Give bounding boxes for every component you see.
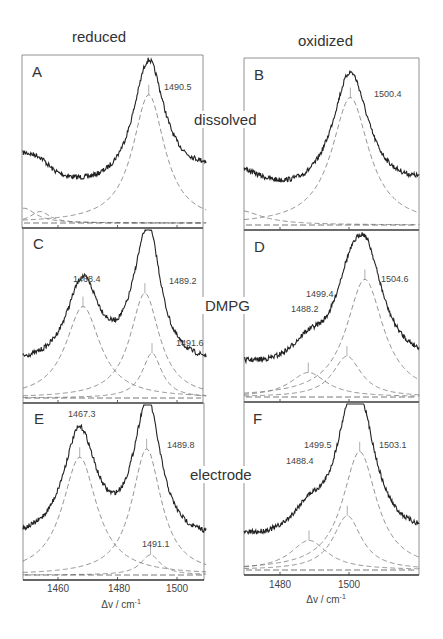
panel-letter-d: D [254,238,265,255]
peak-label-f-2: 1499.5 [304,440,332,450]
peak-label-f-1: 1488.4 [286,456,314,466]
panel-letter-c: C [33,235,44,252]
spectrum-panel-e [23,403,206,580]
column-title-reduced: reduced [72,28,126,45]
spectrum-panel-a [22,55,206,228]
peak-label-f-3: 1503.1 [379,440,407,450]
xtick-left-1480: 1480 [108,583,130,594]
panel-letter-a: A [32,63,42,80]
xtick-right-1500: 1500 [338,579,360,590]
experimental-spectrum [23,405,206,532]
xlabel-left-exp: -1 [135,598,141,605]
row-label-electrode: electrode [187,466,255,483]
xtick-left-1460: 1460 [47,583,69,594]
peak-label-b-1: 1500.4 [374,89,402,99]
peak-label-c-1: 1468.4 [73,274,101,284]
xlabel-right: Δv / cm-1 [306,593,346,605]
panel-letter-f: F [253,410,262,427]
experimental-spectrum [23,58,206,180]
peak-label-c-3: 1491.6 [176,338,204,348]
peak-label-e-2: 1489.8 [167,440,195,450]
experimental-spectrum [244,71,419,182]
peak-label-d-2: 1499.4 [306,289,334,299]
xtick-right-1480: 1480 [269,579,291,590]
xlabel-right-text: Δv / cm [306,594,339,605]
xlabel-right-exp: -1 [340,593,346,600]
spectrum-panel-b [244,58,419,230]
row-label-dissolved: dissolved [191,111,260,128]
row-label-dmpg: DMPG [202,297,253,314]
spectrum-panel-d [244,230,419,402]
peak-label-c-2: 1489.2 [169,276,197,286]
column-title-oxidized: oxidized [298,32,353,49]
xtick-left-1500: 1500 [166,583,188,594]
spectrum-panel-c [23,228,206,403]
peak-label-d-3: 1504.6 [381,274,409,284]
peak-label-e-3: 1491.1 [142,539,170,549]
xlabel-left: Δv / cm-1 [101,598,141,610]
peak-label-d-1: 1488.2 [291,304,319,314]
peak-label-a-1: 1490.5 [164,82,192,92]
spectrum-panel-f [244,402,419,575]
panel-letter-e: E [34,410,44,427]
experimental-spectrum [244,404,419,534]
xlabel-left-text: Δv / cm [101,599,134,610]
panel-letter-b: B [254,66,264,83]
peak-label-e-1: 1467.3 [68,409,96,419]
